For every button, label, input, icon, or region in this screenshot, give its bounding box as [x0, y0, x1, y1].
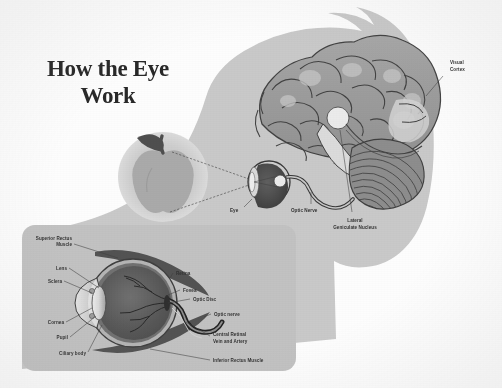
- label-ciliary-body: Ciliary body: [59, 351, 86, 356]
- label-central-retinal-line2: Vein and Artery: [213, 339, 248, 344]
- lateral-geniculate-nucleus-marker: [327, 107, 349, 129]
- label-lgn-line2: Geniculate Nucleus: [333, 225, 377, 230]
- title-line-2: Work: [80, 83, 136, 108]
- apple-illustration: [118, 132, 208, 222]
- label-lgn-line1: Lateral: [347, 218, 362, 223]
- eye-anatomy-panel: Superior Rectus Muscle Lens Sclera Corne…: [22, 225, 296, 371]
- label-pupil: Pupil: [57, 335, 68, 340]
- label-optic-disc: Optic Disc: [193, 297, 217, 302]
- label-optic-nerve-panel: Optic nerve: [214, 312, 240, 317]
- label-central-retinal-line1: Central Retinal: [213, 332, 246, 337]
- label-sclera: Sclera: [48, 279, 62, 284]
- label-visual-cortex-line2: Cortex: [450, 67, 465, 72]
- label-visual-cortex-line1: Visual: [450, 60, 464, 65]
- label-fovea: Fovea: [183, 288, 197, 293]
- page-title: How the Eye Work: [47, 56, 169, 108]
- label-superior-rectus-line1: Superior Rectus: [36, 236, 73, 241]
- label-cornea: Cornea: [48, 320, 65, 325]
- label-superior-rectus-line2: Muscle: [56, 242, 72, 247]
- label-inferior-rectus: Inferior Rectus Muscle: [213, 358, 264, 363]
- label-retina: Retina: [176, 271, 191, 276]
- infographic-canvas: How the Eye Work: [0, 0, 502, 388]
- label-optic-nerve: Optic Nerve: [291, 208, 318, 213]
- label-eye: Eye: [230, 208, 239, 213]
- label-lens: Lens: [56, 266, 67, 271]
- title-line-1: How the Eye: [47, 56, 169, 81]
